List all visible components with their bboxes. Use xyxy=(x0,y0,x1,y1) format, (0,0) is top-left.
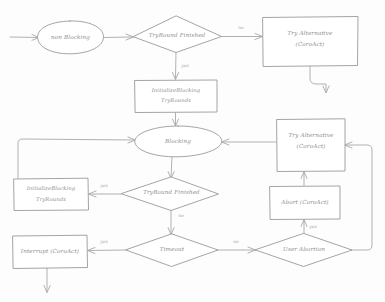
node-try-alternative-right[interactable]: Try Alternative (CoroAct) xyxy=(277,119,345,172)
node-blocking[interactable]: Blocking xyxy=(135,126,222,157)
node-abort[interactable]: Abort (CoroAct) xyxy=(270,186,340,220)
node-tryround-finished-top[interactable]: TryRound Finished xyxy=(134,16,222,53)
init-blocking-top-rect-shape xyxy=(135,80,217,113)
edge-label-mid-yes: yes xyxy=(99,183,108,188)
node-try-alternative-top[interactable]: Try Alternative (CoroAct) xyxy=(263,17,358,67)
edge-user-abortion-loop-right xyxy=(345,145,372,250)
tryround-finished-top-label: TryRound Finished xyxy=(149,32,206,39)
init-blocking-left-rect-shape xyxy=(14,178,89,210)
node-init-blocking-top[interactable]: InitializeBlocking TryRounds xyxy=(135,80,217,113)
init-blocking-top-label-line2: TryRounds xyxy=(161,97,191,104)
tryround-finished-mid-label: TryRound Finished xyxy=(143,189,200,196)
edge-init-left-to-blocking xyxy=(18,139,135,178)
user-abortion-label: User Abortion xyxy=(283,246,325,252)
init-blocking-top-label-line1: InitializeBlocking xyxy=(151,87,201,94)
edge-timeout-to-interrupt xyxy=(88,250,126,251)
edge-tryround-to-init-top xyxy=(176,52,177,79)
init-blocking-left-label-line1: InitializeBlocking xyxy=(26,185,76,192)
interrupt-label: Interrupt (CoroAct) xyxy=(20,248,79,255)
timeout-label: Timeout xyxy=(160,246,185,252)
node-layer: non Blocking TryRound Finished Try Alter… xyxy=(13,16,358,269)
edge-entry xyxy=(10,37,38,38)
node-interrupt[interactable]: Interrupt (CoroAct) xyxy=(13,235,88,268)
try-alternative-top-label-line1: Try Alternative xyxy=(287,30,333,37)
edge-label-top-yes: yes xyxy=(180,63,189,68)
edge-blocking-to-tryround-mid xyxy=(171,156,172,178)
try-alternative-top-label-line2: (CoroAct) xyxy=(296,41,325,47)
edge-nonblocking-to-tryround xyxy=(103,37,133,38)
edge-label-mid-no: no xyxy=(178,213,184,218)
edge-label-top-no: no xyxy=(238,25,244,30)
node-timeout[interactable]: Timeout xyxy=(126,234,218,267)
flowchart-diagram: non Blocking TryRound Finished Try Alter… xyxy=(0,0,385,302)
try-alternative-right-label-line2: (CoroAct) xyxy=(297,143,326,149)
flowchart-canvas: non Blocking TryRound Finished Try Alter… xyxy=(0,0,385,302)
abort-label: Abort (CoroAct) xyxy=(280,199,328,205)
edge-label-timeout-no: no xyxy=(233,239,239,244)
init-blocking-left-label-line2: TryRounds xyxy=(36,196,66,203)
node-user-abortion[interactable]: User Abortion xyxy=(256,234,353,267)
edge-label-timeout-yes: yes xyxy=(99,239,108,244)
try-alternative-right-label-line1: Try Alternative xyxy=(288,132,334,139)
node-non-blocking[interactable]: non Blocking xyxy=(38,21,104,54)
node-tryround-finished-mid[interactable]: TryRound Finished xyxy=(122,177,219,211)
edge-label-user-abortion-yes: yes xyxy=(308,224,317,229)
non-blocking-label: non Blocking xyxy=(51,34,90,41)
blocking-label: Blocking xyxy=(164,138,191,145)
node-init-blocking-left[interactable]: InitializeBlocking TryRounds xyxy=(14,178,89,210)
